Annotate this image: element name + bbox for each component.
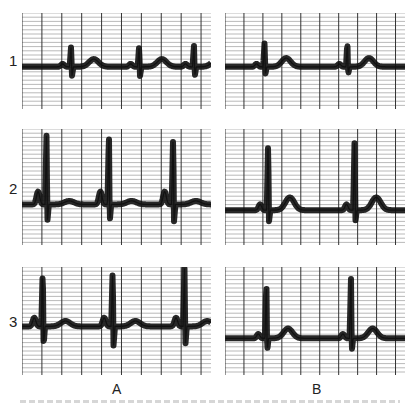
ecg-panel-A3 <box>22 267 211 375</box>
row-label-3: 3 <box>9 313 17 330</box>
column-label-a: A <box>112 381 121 397</box>
ecg-panel-B1 <box>225 13 405 109</box>
ecg-panel-B3 <box>225 267 405 375</box>
ecg-panel-A2 <box>22 129 211 245</box>
ecg-panel-A1 <box>22 13 211 109</box>
column-label-b: B <box>312 381 321 397</box>
row-label-2: 2 <box>9 180 17 197</box>
cropped-caption <box>20 398 400 404</box>
row-label-1: 1 <box>9 52 17 69</box>
ecg-panel-B2 <box>225 129 405 245</box>
